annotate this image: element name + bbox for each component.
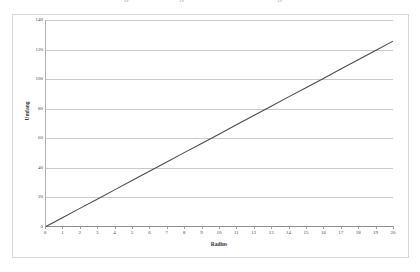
x-axis-tick-label: 8 (176, 229, 192, 237)
chart-frame: 020406080100120140 Umfang 01234567891011… (12, 14, 409, 258)
x-axis-tick-label: 19 (368, 229, 384, 237)
series-line-umfang (45, 20, 393, 227)
x-axis-tick-label: 17 (333, 229, 349, 237)
x-axis-tick-label: 11 (228, 229, 244, 237)
x-axis-tick-label: 14 (281, 229, 297, 237)
x-axis-tick-label: 12 (246, 229, 262, 237)
x-axis-tick-label: 13 (263, 229, 279, 237)
x-axis-tick-label: 3 (89, 229, 105, 237)
y-axis-tick-label: 40 (21, 165, 43, 171)
x-axis-tick-label: 6 (141, 229, 157, 237)
x-axis-tick-label: 10 (211, 229, 227, 237)
y-axis-tick-label: 60 (21, 135, 43, 141)
x-axis-tick-label: 16 (315, 229, 331, 237)
plot-area (45, 20, 393, 227)
y-axis-tick-label: 120 (21, 47, 43, 53)
x-axis-tick-label: 5 (124, 229, 140, 237)
y-axis-tick-label: 20 (21, 194, 43, 200)
y-axis-title: Umfang (23, 91, 31, 131)
x-axis-tick-label: 9 (194, 229, 210, 237)
x-axis-tick-label: 7 (159, 229, 175, 237)
x-axis-tick-label: 0 (37, 229, 53, 237)
y-axis-tick-label: 140 (21, 17, 43, 23)
x-axis-tick-label: 18 (350, 229, 366, 237)
y-axis-tick-label: 100 (21, 76, 43, 82)
x-axis-tick-label: 2 (72, 229, 88, 237)
x-axis-tick-label: 20 (385, 229, 401, 237)
x-axis-tick-label: 15 (298, 229, 314, 237)
x-axis-title: Radius (45, 240, 393, 248)
x-axis-tick-label: 4 (107, 229, 123, 237)
x-axis-tick-labels: 01234567891011121314151617181920 (45, 229, 393, 238)
x-axis-tick-label: 1 (54, 229, 70, 237)
clipped-caption: Abbildung: Zusammenhang zwischen Radius … (0, 0, 420, 3)
